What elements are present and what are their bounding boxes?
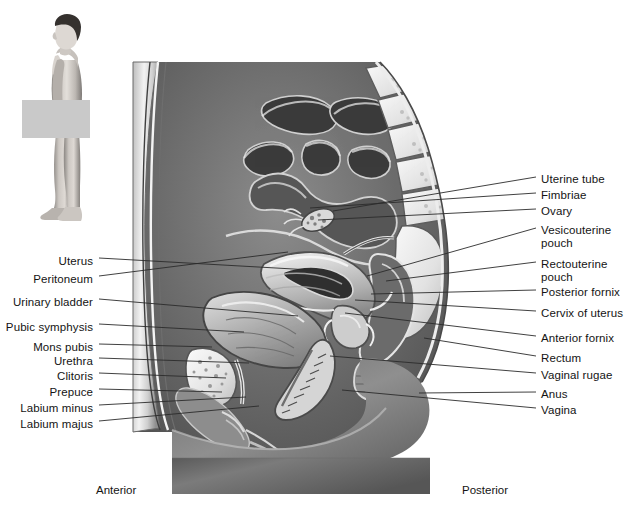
label-rectouterine-pouch: Rectouterine pouch — [541, 258, 607, 284]
label-clitoris: Clitoris — [0, 370, 93, 383]
label-labium-majus: Labium majus — [0, 418, 93, 431]
label-posterior-fornix: Posterior fornix — [541, 286, 620, 299]
label-pubic-symphysis: Pubic symphysis — [0, 321, 93, 334]
label-anus: Anus — [541, 388, 568, 401]
thigh-mass — [172, 458, 430, 494]
label-uterus: Uterus — [0, 255, 93, 268]
label-labium-minus: Labium minus — [0, 402, 93, 415]
label-rectum: Rectum — [541, 352, 581, 365]
label-fimbriae: Fimbriae — [541, 189, 587, 202]
orientation-label-posterior: Posterior — [462, 484, 508, 496]
label-uterine-tube: Uterine tube — [541, 173, 605, 186]
label-peritoneum: Peritoneum — [0, 273, 93, 286]
label-anterior-fornix: Anterior fornix — [541, 332, 614, 345]
label-vaginal-rugae: Vaginal rugae — [541, 369, 612, 382]
sagittal-section-drawing — [130, 58, 460, 496]
anatomical-figure-root: UterusPeritoneumUrinary bladderPubic sym… — [0, 0, 631, 515]
label-mons-pubis: Mons pubis — [0, 341, 93, 354]
label-vesicouterine-pouch: Vesicouterine pouch — [541, 224, 611, 250]
female-pelvis-sagittal-illustration — [130, 58, 460, 496]
label-ovary: Ovary — [541, 205, 572, 218]
label-urinary-bladder: Urinary bladder — [0, 296, 93, 309]
label-vagina: Vagina — [541, 404, 577, 417]
section-plane-band — [22, 100, 90, 138]
label-cervix-of-uterus: Cervix of uterus — [541, 307, 623, 320]
label-prepuce: Prepuce — [0, 386, 93, 399]
label-urethra: Urethra — [0, 355, 93, 368]
orientation-label-anterior: Anterior — [96, 484, 136, 496]
lateral-view-whole-body-figure — [22, 8, 118, 223]
